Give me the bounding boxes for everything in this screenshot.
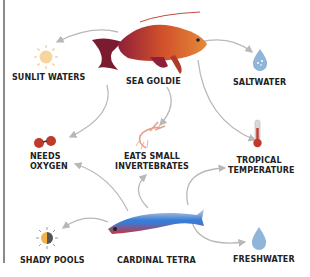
water-drop-icon-freshwater bbox=[252, 227, 266, 250]
diagram-canvas bbox=[0, 0, 310, 277]
arrow-tetra-to-tropical bbox=[187, 168, 225, 205]
label-needs-oxygen: NEEDS OXYGEN bbox=[30, 152, 60, 172]
arrow-goldie-to-invertebrates bbox=[160, 87, 171, 125]
label-tropical-temperature: TROPICAL TEMPERATURE bbox=[228, 156, 290, 176]
label-sea-goldie: SEA GOLDIE bbox=[126, 77, 181, 87]
arrow-tetra-to-invertebrates bbox=[138, 175, 148, 208]
arrow-goldie-to-tropical bbox=[198, 60, 255, 140]
label-needs-oxygen-line2: OXYGEN bbox=[30, 162, 60, 172]
sea-goldie-fish-image bbox=[92, 12, 207, 74]
label-needs-oxygen-line1: NEEDS bbox=[30, 152, 60, 162]
label-shady-pools: SHADY POOLS bbox=[20, 256, 85, 266]
arrow-goldie-to-saltwater bbox=[200, 40, 252, 52]
label-sunlit-waters: SUNLIT WATERS bbox=[12, 73, 85, 83]
thermometer-icon bbox=[253, 120, 261, 147]
label-eats-small-line2: INVERTEBRATES bbox=[112, 162, 192, 172]
half-sun-icon bbox=[36, 227, 58, 249]
sun-icon bbox=[34, 45, 58, 69]
label-saltwater: SALTWATER bbox=[233, 78, 286, 88]
water-drop-icon-saltwater bbox=[253, 49, 267, 71]
shrimp-icon bbox=[136, 122, 165, 149]
label-tropical-line1: TROPICAL bbox=[228, 156, 290, 166]
arrow-tetra-to-freshwater bbox=[192, 222, 245, 243]
arrow-sunlit-to-oxygen bbox=[70, 85, 108, 137]
label-eats-small-line1: EATS SMALL bbox=[112, 152, 192, 162]
label-eats-small-invertebrates: EATS SMALL INVERTEBRATES bbox=[112, 152, 192, 172]
label-freshwater: FRESHWATER bbox=[233, 255, 295, 265]
cardinal-tetra-fish-image bbox=[108, 209, 204, 234]
label-tropical-line2: TEMPERATURE bbox=[228, 166, 290, 176]
oxygen-molecule-icon bbox=[34, 136, 56, 148]
arrow-tetra-to-shady bbox=[63, 218, 108, 228]
label-cardinal-tetra: CARDINAL TETRA bbox=[117, 256, 196, 266]
